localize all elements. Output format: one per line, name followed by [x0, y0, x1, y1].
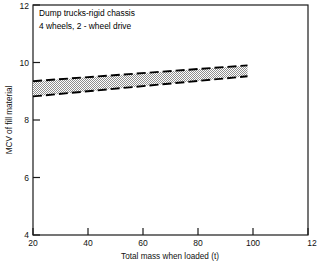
x-tick-label: 40	[83, 238, 93, 248]
y-tick-label: 6	[24, 173, 29, 183]
x-axis-title: Total mass when loaded (t)	[121, 252, 219, 261]
annotation-line-1: Dump trucks-rigid chassis	[39, 8, 135, 18]
mcv-vs-total-mass-chart: 4 6 8 10 12 20 40 60 80 100 12	[0, 0, 320, 263]
y-tick-label: 8	[24, 115, 29, 125]
x-tick-label: 100	[246, 238, 260, 248]
chart-background	[0, 0, 320, 263]
chart-container: 4 6 8 10 12 20 40 60 80 100 12	[0, 0, 320, 263]
x-tick-label: 80	[193, 238, 203, 248]
annotation-line-2: 4 wheels, 2 - wheel drive	[39, 21, 132, 31]
x-tick-label: 20	[28, 238, 38, 248]
x-tick-label: 60	[138, 238, 148, 248]
y-tick-label: 12	[20, 1, 30, 11]
x-tick-label-last: 12	[307, 238, 317, 248]
y-tick-label: 10	[20, 58, 30, 68]
y-axis-title: MCV of fill material	[5, 85, 14, 154]
